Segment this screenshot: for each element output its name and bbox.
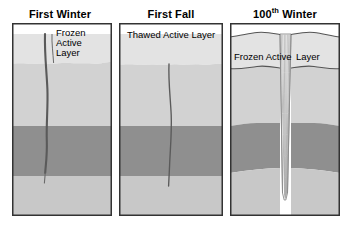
middle-permafrost-p1 — [12, 126, 112, 176]
upper-permafrost-right-p3 — [291, 66, 340, 126]
panel-title-hundredth-winter: 100th Winter — [230, 8, 340, 20]
lower-permafrost-left-p3 — [230, 168, 280, 216]
upper-permafrost-p1 — [12, 62, 112, 126]
lower-permafrost-p2 — [119, 176, 223, 216]
label-frozen-active-p3: Frozen Active — [234, 52, 292, 62]
middle-permafrost-right-p3 — [291, 123, 340, 173]
panel-title-first-winter: First Winter — [12, 8, 108, 20]
panel-title-number: 100 — [253, 8, 272, 20]
panel-first-fall — [119, 23, 223, 216]
label-layer-p3: Layer — [296, 52, 320, 62]
middle-permafrost-left-p3 — [230, 123, 280, 173]
lower-permafrost-right-p3 — [291, 168, 340, 216]
panel-title-ordinal-suffix: th — [272, 6, 279, 15]
panel-title-season: Winter — [279, 8, 317, 20]
lower-permafrost-p1 — [12, 176, 112, 216]
label-line-3-p1: Layer — [56, 48, 86, 58]
panel-title-first-fall: First Fall — [124, 8, 218, 20]
ice-wedge-formation-diagram: First Winter First Fall 100th Winter Fro… — [0, 0, 351, 229]
label-thawed-active-layer-p2: Thawed Active Layer — [127, 30, 215, 40]
label-frozen-active-layer-p1: Frozen Active Layer — [56, 28, 86, 59]
upper-permafrost-left-p3 — [230, 66, 280, 126]
